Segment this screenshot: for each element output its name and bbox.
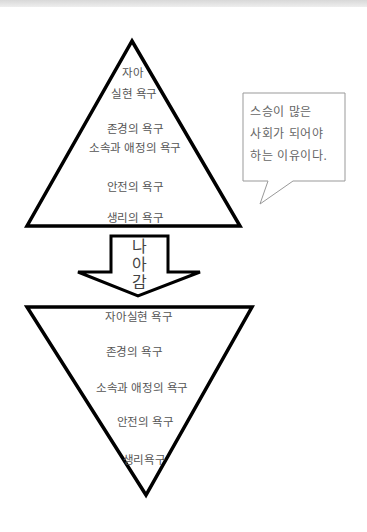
callout-line: 사회가 되어야 [250,123,342,145]
arrow-char: 나 [128,238,150,256]
arrow-label: 나 아 감 [128,238,150,292]
upper-label-self-actualization-1: 자아 [122,66,143,80]
upper-label-self-actualization-2: 실현 욕구 [111,87,157,101]
upper-label-esteem: 존경의 욕구 [107,122,164,136]
lower-label-physiological: 생리욕구 [123,453,166,467]
arrow-char: 감 [128,274,150,292]
lower-label-self-actualization: 자아실현 욕구 [105,310,173,324]
callout-line: 하는 이유이다. [250,145,342,167]
lower-label-esteem: 존경의 욕구 [106,345,163,359]
lower-label-safety: 안전의 욕구 [117,415,174,429]
upper-label-belonging: 소속과 애정의 욕구 [89,141,181,155]
diagram-canvas [0,0,367,532]
lower-label-belonging: 소속과 애정의 욕구 [96,381,188,395]
upper-label-physiological: 생리의 욕구 [107,211,164,225]
callout-line: 스승이 많은 [250,101,342,123]
callout-text: 스승이 많은 사회가 되어야 하는 이유이다. [250,101,342,167]
arrow-char: 아 [128,256,150,274]
upper-label-safety: 안전의 욕구 [107,180,164,194]
